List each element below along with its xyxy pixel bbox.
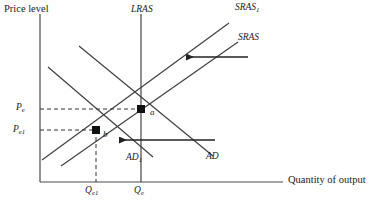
x-tick-qe1-main: Q [85,185,92,195]
curve-label-ad1-subscript: 1 [139,156,142,163]
curve-label-ad: AD [206,152,219,162]
equilibrium-point-a-marker [137,105,145,113]
diagram-canvas: Price level Quantity of output LRAS SRAS… [0,0,382,202]
x-tick-label-qe: Qe [134,186,144,196]
x-axis-title: Quantity of output [288,175,366,186]
curve-label-ad1-main: AD [126,152,139,162]
equilibrium-point-b-label: b [103,130,108,139]
y-tick-label-pe1: Pe1 [13,125,25,135]
y-tick-label-pe: Pe [16,103,25,113]
y-axis-title: Price level [4,4,49,15]
y-tick-pe1-subscript: e1 [19,128,25,135]
curve-label-sras1: SRAS1 [235,3,260,13]
x-tick-qe-main: Q [134,185,141,195]
curve-label-ad1: AD1 [126,153,142,163]
equilibrium-point-a-label: a [150,108,155,117]
curve-label-sras1-subscript: 1 [256,6,259,13]
curve-label-sras1-main: SRAS [235,2,256,12]
x-tick-qe1-subscript: e1 [92,189,98,196]
x-tick-qe-subscript: e [141,189,144,196]
y-tick-pe-subscript: e [22,106,25,113]
ad-as-diagram-svg [0,0,382,202]
curve-label-sras: SRAS [238,33,259,43]
x-tick-label-qe1: Qe1 [85,186,98,196]
equilibrium-point-b-marker [92,126,100,134]
curve-label-lras: LRAS [131,5,153,15]
